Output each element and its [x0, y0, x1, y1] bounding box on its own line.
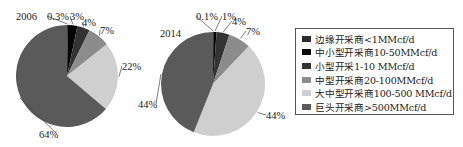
legend-swatch: [302, 104, 311, 110]
legend-label: 中小型开采商10-50MMcf/d: [315, 45, 437, 59]
legend-label: 大中型开采商100-500 MMcf/d: [315, 86, 452, 100]
legend-item-medium-producer: 中型开采商20-100MMcf/d: [302, 73, 453, 87]
pie-2014: 0.1%1%4%7%44%44%2014: [138, 11, 286, 136]
slice-value-label: 4%: [232, 16, 246, 27]
legend-label: 小型开采1-10 MMcf/d: [315, 59, 415, 73]
leader-line: [223, 21, 232, 32]
slice-value-label: 4%: [82, 17, 96, 28]
pie-title: 2006: [16, 11, 37, 22]
slice-value-label: 44%: [266, 110, 286, 121]
slice-value-label: 7%: [246, 26, 260, 37]
legend-swatch: [302, 63, 311, 69]
slice-value-label: 0.3%: [47, 11, 69, 22]
slice-value-label: 44%: [138, 99, 158, 110]
legend-label: 中型开采商20-100MMcf/d: [315, 73, 433, 87]
legend-label: 边缘开采商<1MMcf/d: [315, 32, 415, 46]
pie-2006: 0.3%3%4%7%22%64%2006: [16, 11, 142, 140]
legend-item-major-producer: 巨头开采商>500MMcf/d: [302, 100, 453, 114]
pie-chart-figure: 0.3%3%4%7%22%64%20060.1%1%4%7%44%44%2014…: [0, 0, 463, 147]
slice-value-label: 64%: [39, 129, 59, 140]
legend-item-large-medium-producer: 大中型开采商100-500 MMcf/d: [302, 86, 453, 100]
legend-swatch: [302, 77, 311, 83]
legend-item-small-medium-producer: 中小型开采商10-50MMcf/d: [302, 46, 453, 60]
legend-swatch: [302, 36, 311, 42]
chart-legend: 边缘开采商<1MMcf/d 中小型开采商10-50MMcf/d 小型开采1-10…: [295, 28, 454, 115]
slice-value-label: 7%: [100, 25, 114, 36]
legend-item-edge-producer: 边缘开采商<1MMcf/d: [302, 32, 453, 46]
legend-swatch: [302, 90, 311, 96]
leader-line: [258, 113, 266, 115]
legend-swatch: [302, 49, 311, 55]
legend-item-small-producer: 小型开采1-10 MMcf/d: [302, 59, 453, 73]
pie-title: 2014: [160, 28, 182, 39]
slice-value-label: 22%: [122, 61, 142, 72]
legend-label: 巨头开采商>500MMcf/d: [315, 100, 426, 114]
slice-value-label: 0.1%: [196, 11, 218, 22]
